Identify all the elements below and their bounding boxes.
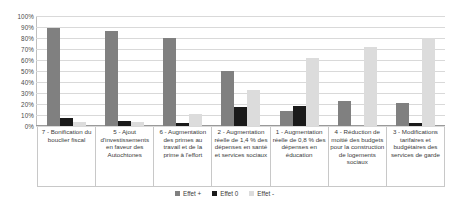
bar-effet bbox=[396, 103, 409, 126]
bar-group bbox=[212, 16, 270, 126]
bar-effet-0 bbox=[293, 106, 306, 126]
bar-group bbox=[328, 16, 386, 126]
x-axis-category-label: 5 - Ajout d'investissements en faveur de… bbox=[96, 127, 154, 187]
bar-effet bbox=[47, 28, 60, 126]
bar-effet-0 bbox=[409, 123, 422, 126]
legend-swatch-icon bbox=[175, 191, 180, 196]
bar-effet bbox=[105, 31, 118, 126]
bar-group bbox=[387, 16, 445, 126]
bar-group bbox=[37, 16, 95, 126]
x-axis-category-label: 7 - Bonification du bouclier fiscal bbox=[37, 127, 96, 187]
x-axis-category-label: 1 - Augmentation réelle de 0,8 % des dép… bbox=[271, 127, 329, 187]
legend-swatch-icon bbox=[212, 191, 217, 196]
bar-effet bbox=[247, 90, 260, 126]
y-axis-tick: 20% bbox=[21, 101, 34, 108]
x-axis-category-label: 3 - Modifications tarifaires et budgétai… bbox=[387, 127, 445, 187]
y-axis-tick: 0% bbox=[25, 123, 34, 130]
bar-effet bbox=[280, 111, 293, 126]
bar-effet bbox=[422, 38, 435, 126]
y-axis: 0%10%20%30%40%50%60%70%80%90%100% bbox=[4, 16, 34, 126]
plot-area: 0%10%20%30%40%50%60%70%80%90%100% 7 - Bo… bbox=[0, 0, 449, 188]
legend-label: Effet + bbox=[183, 190, 201, 197]
bar-group bbox=[154, 16, 212, 126]
bar-effet bbox=[163, 38, 176, 126]
bar-group bbox=[95, 16, 153, 126]
legend-swatch-icon bbox=[249, 191, 254, 196]
bar-groups bbox=[37, 16, 445, 126]
y-axis-tick: 40% bbox=[21, 79, 34, 86]
bar-effet bbox=[338, 101, 351, 126]
y-axis-tick: 60% bbox=[21, 57, 34, 64]
legend-item[interactable]: Effet + bbox=[175, 190, 201, 197]
y-axis-tick: 100% bbox=[17, 13, 34, 20]
y-axis-tick: 80% bbox=[21, 35, 34, 42]
bar-effet-0 bbox=[176, 123, 189, 126]
bar-effet-0 bbox=[234, 107, 247, 126]
bar-group bbox=[270, 16, 328, 126]
legend-item[interactable]: Effet - bbox=[249, 190, 274, 197]
y-axis-tick: 90% bbox=[21, 24, 34, 31]
legend-label: Effet 0 bbox=[220, 190, 238, 197]
y-axis-tick: 50% bbox=[21, 68, 34, 75]
bar-effet bbox=[189, 114, 202, 126]
bar-effet-0 bbox=[118, 121, 131, 127]
legend-label: Effet - bbox=[257, 190, 274, 197]
bar-effet bbox=[306, 58, 319, 126]
bar-chart: 0%10%20%30%40%50%60%70%80%90%100% 7 - Bo… bbox=[0, 0, 449, 218]
bar-effet bbox=[73, 122, 86, 126]
chart-legend: Effet +Effet 0Effet - bbox=[0, 190, 449, 197]
x-axis-category-label: 6 - Augmentation des primes au travail e… bbox=[154, 127, 212, 187]
y-axis-tick: 10% bbox=[21, 112, 34, 119]
bar-effet bbox=[131, 122, 144, 126]
y-axis-tick: 30% bbox=[21, 90, 34, 97]
category-labels: 7 - Bonification du bouclier fiscal5 - A… bbox=[37, 127, 445, 187]
legend-item[interactable]: Effet 0 bbox=[212, 190, 238, 197]
x-axis-category-label: 4 - Réduction de moitié des budgets pour… bbox=[329, 127, 387, 187]
bar-effet bbox=[364, 47, 377, 126]
x-axis-category-label: 2 - Augmentation réelle de 1,4 % des dép… bbox=[212, 127, 270, 187]
bar-effet bbox=[221, 71, 234, 126]
bar-effet-0 bbox=[60, 118, 73, 126]
y-axis-tick: 70% bbox=[21, 46, 34, 53]
